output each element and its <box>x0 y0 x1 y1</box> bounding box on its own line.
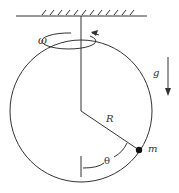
radius-label: R <box>105 113 114 124</box>
mass-label: m <box>148 143 157 154</box>
angle-label: θ <box>104 155 110 166</box>
omega-label: ω <box>38 34 47 47</box>
ceiling-support <box>16 10 147 16</box>
hoop-diagram: ω g R θ m <box>0 0 179 193</box>
gravity-label: g <box>153 67 159 78</box>
angle-arc-upper <box>114 143 127 157</box>
mass-bead <box>136 147 142 153</box>
gravity-arrow-icon <box>165 57 171 96</box>
angle-arc <box>83 163 104 168</box>
